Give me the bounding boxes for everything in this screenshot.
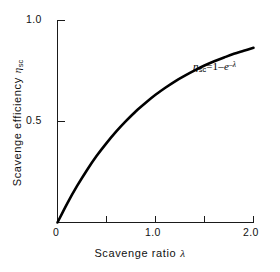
scavenge-efficiency-chart: 1.0 0.5 0 1.0 2.0 Scavenge ratioλ Scaven…	[0, 0, 280, 272]
x-tick-label-1.0: 1.0	[145, 227, 161, 238]
curve-equation-annotation: ηsc=1–e–λ	[193, 60, 236, 74]
y-tick-label-0.5: 0.5	[26, 115, 42, 126]
y-tick-label-1.0: 1.0	[26, 14, 42, 25]
x-axis-title-text: Scavenge ratio	[94, 247, 176, 259]
x-axis-title-symbol: λ	[180, 247, 185, 259]
x-tick-label-0: 0	[53, 227, 59, 238]
annotation-one-minus: 1–	[213, 60, 224, 72]
x-tick-label-2.0: 2.0	[243, 227, 259, 238]
plot-canvas	[0, 0, 280, 272]
annotation-exponent: –λ	[229, 60, 236, 69]
x-axis-title: Scavenge ratioλ	[0, 247, 280, 259]
